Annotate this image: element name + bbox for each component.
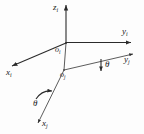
origin-i-dot	[65, 42, 67, 44]
axis-label-x-i: xi	[6, 68, 12, 78]
angle-label-theta-vertical: θ	[105, 60, 109, 69]
axis-label-y-i: yi	[122, 27, 128, 37]
axis-label-x-j: xj	[42, 119, 48, 129]
coordinate-frame-diagram: zi yi yj xi xj oi oj θ θ	[0, 0, 144, 134]
origin-offset-line	[64, 43, 66, 70]
axis-label-z-i: zi	[53, 3, 58, 13]
y-axis-j-line	[64, 54, 133, 70]
axis-label-y-j: yj	[124, 55, 130, 65]
theta-rotation-arc	[36, 91, 52, 99]
origin-label-o-j: oj	[60, 71, 66, 81]
diagram-canvas	[0, 0, 144, 134]
origin-label-o-i: oi	[55, 46, 61, 56]
angle-label-theta-rotation: θ	[33, 99, 37, 108]
